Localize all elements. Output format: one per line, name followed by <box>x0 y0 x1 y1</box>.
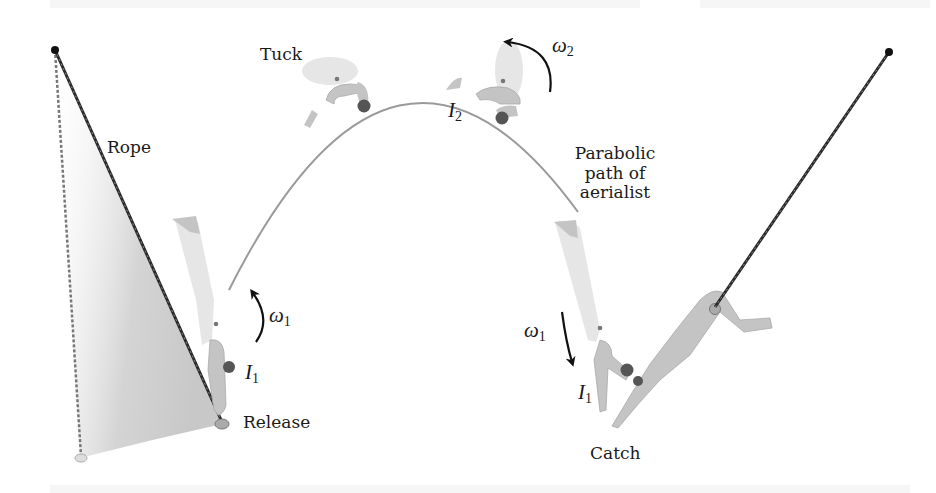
symbol-omega1-right: ω1 <box>524 318 546 345</box>
scan-strip-bottom <box>50 485 910 493</box>
symbol-I2: I2 <box>448 98 462 125</box>
symbol-I1-right: I1 <box>578 380 592 407</box>
left-bar <box>215 419 229 429</box>
scan-strip-top-right <box>700 0 930 8</box>
symbol-I1-left: I1 <box>245 360 259 387</box>
parabolic-path <box>229 103 578 290</box>
aerialist-diagram: Rope Tuck Parabolic path of aerialist Re… <box>0 0 936 493</box>
symbol-omega1-left: ω1 <box>269 303 291 330</box>
head <box>223 361 235 373</box>
scan-strip-top <box>50 0 640 8</box>
center-of-mass-dot <box>214 322 219 327</box>
center-of-mass-dot <box>598 326 603 331</box>
right-pivot <box>885 48 893 56</box>
catcher <box>612 291 772 428</box>
omega1-left-arrow-icon <box>253 293 263 342</box>
center-of-mass-dot <box>501 79 506 84</box>
label-release: Release <box>243 413 310 433</box>
aerialist-catch <box>554 220 634 412</box>
aerialist-tuck-1 <box>302 57 371 128</box>
omega1-right-arrow-icon <box>562 312 572 362</box>
center-of-mass-dot <box>335 77 340 82</box>
symbol-omega2: ω2 <box>552 33 574 60</box>
label-tuck: Tuck <box>260 45 302 65</box>
label-rope: Rope <box>107 138 151 158</box>
diagram-canvas <box>0 0 936 493</box>
bar-previous-position <box>75 454 87 462</box>
label-parabolic-path: Parabolic path of aerialist <box>570 144 660 203</box>
label-catch: Catch <box>590 444 640 464</box>
left-pivot <box>51 46 59 54</box>
